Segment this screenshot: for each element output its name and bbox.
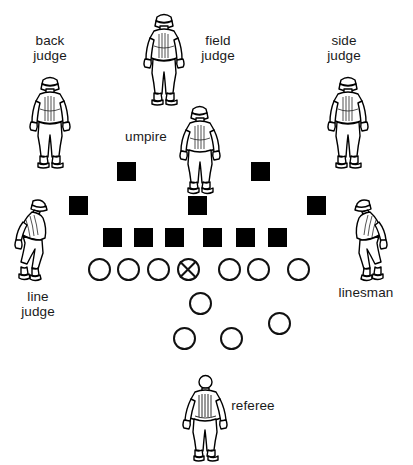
offense-circle (268, 312, 291, 335)
offense-circle (117, 258, 140, 281)
referee-figure (178, 372, 232, 462)
line-judge-figure (8, 196, 58, 284)
back-judge-label: back judge (22, 33, 78, 63)
offense-circle (173, 327, 196, 350)
defense-square (203, 228, 222, 247)
defense-square (188, 196, 207, 215)
defense-square (251, 162, 270, 181)
offense-circle (220, 327, 243, 350)
line-judge-label: line judge (10, 289, 66, 319)
offense-circle (147, 258, 170, 281)
defense-square (134, 228, 153, 247)
defense-square (307, 196, 326, 215)
defense-square (103, 228, 122, 247)
referee-label: referee (222, 398, 284, 413)
linesman-figure (344, 196, 394, 284)
defense-square (236, 228, 255, 247)
offense-circle (247, 258, 270, 281)
linesman-label: linesman (326, 285, 406, 300)
defense-square (165, 228, 184, 247)
field-judge-label: field judge (190, 33, 246, 63)
ball-carrier-circle (177, 258, 200, 281)
offense-circle (88, 258, 111, 281)
defense-square (117, 162, 136, 181)
umpire-figure (173, 103, 227, 195)
side-judge-figure (320, 73, 376, 169)
field-judge-figure (136, 10, 192, 106)
defense-square (268, 228, 287, 247)
football-officials-diagram: back judge field judge side judge umpire… (0, 0, 413, 465)
offense-circle (218, 258, 241, 281)
offense-circle (287, 258, 310, 281)
back-judge-figure (22, 73, 78, 169)
offense-circle (189, 292, 212, 315)
side-judge-label: side judge (316, 33, 372, 63)
defense-square (69, 196, 88, 215)
umpire-label: umpire (120, 129, 172, 144)
